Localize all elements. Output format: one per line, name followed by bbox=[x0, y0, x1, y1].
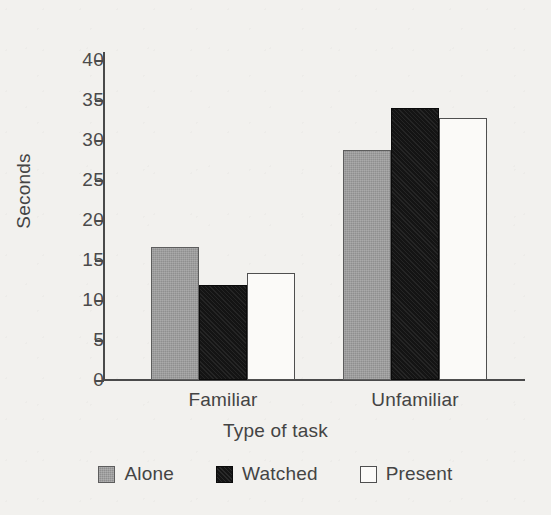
chart-legend: AloneWatchedPresent bbox=[0, 463, 551, 485]
bar-familiar-alone bbox=[151, 247, 199, 380]
bar-unfamiliar-alone bbox=[343, 150, 391, 380]
legend-label: Alone bbox=[124, 463, 174, 485]
bar-familiar-present bbox=[247, 273, 295, 380]
y-axis-title: Seconds bbox=[13, 131, 35, 251]
y-tick-label: 15 bbox=[58, 250, 104, 269]
y-tick-label: 25 bbox=[58, 170, 104, 189]
y-tick-label: 30 bbox=[58, 130, 104, 149]
y-tick-label: 5 bbox=[58, 330, 104, 349]
y-tick-label: 20 bbox=[58, 210, 104, 229]
y-tick-label: 10 bbox=[58, 290, 104, 309]
category-label-unfamiliar: Unfamiliar bbox=[335, 389, 495, 411]
bar-chart: 0510152025303540 Seconds FamiliarUnfamil… bbox=[0, 0, 551, 515]
legend-swatch-icon-watched bbox=[216, 466, 233, 483]
legend-item-present[interactable]: Present bbox=[360, 463, 453, 485]
bar-familiar-watched bbox=[199, 285, 247, 380]
legend-item-watched[interactable]: Watched bbox=[216, 463, 318, 485]
y-tick-label: 35 bbox=[58, 90, 104, 109]
legend-label: Watched bbox=[242, 463, 318, 485]
bar-unfamiliar-watched bbox=[391, 108, 439, 380]
y-tick-label: 0 bbox=[58, 370, 104, 389]
legend-swatch-icon-alone bbox=[98, 466, 115, 483]
x-axis-title: Type of task bbox=[0, 420, 551, 442]
legend-item-alone[interactable]: Alone bbox=[98, 463, 174, 485]
plot-area bbox=[103, 55, 523, 380]
y-tick-label: 40 bbox=[58, 50, 104, 69]
bar-unfamiliar-present bbox=[439, 118, 487, 380]
legend-label: Present bbox=[386, 463, 453, 485]
legend-swatch-icon-present bbox=[360, 466, 377, 483]
category-label-familiar: Familiar bbox=[143, 389, 303, 411]
